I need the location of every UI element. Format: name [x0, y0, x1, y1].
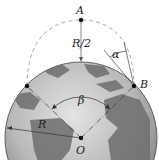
height-arrowhead [79, 57, 83, 62]
label-b: B [139, 78, 148, 91]
trajectory-diagram: A B O R/2 α β R [0, 0, 159, 167]
label-beta: β [77, 94, 84, 107]
center-o-dot [79, 136, 83, 140]
diagram-canvas: A B O R/2 α β R [0, 0, 159, 167]
label-radius: R [37, 118, 46, 131]
label-height: R/2 [71, 37, 91, 50]
point-left-dot [25, 84, 29, 88]
label-o: O [76, 144, 85, 157]
point-a-dot [79, 18, 83, 22]
label-alpha: α [112, 48, 120, 61]
label-a: A [75, 4, 84, 17]
point-b-dot [132, 84, 136, 88]
